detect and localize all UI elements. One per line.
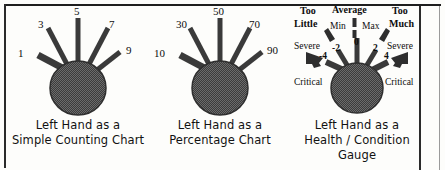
zone-label-max: Max — [362, 22, 379, 32]
zone-label-average: Average — [332, 5, 367, 15]
zone-label-severe-left: Severe — [294, 42, 320, 52]
caption-line-2: Percentage Chart — [150, 133, 290, 148]
hand-diagram-counting — [8, 0, 148, 120]
finger-label-1: 1 — [18, 48, 24, 59]
critical-right-arrow-icon — [391, 52, 408, 68]
zone-label-critical-right: Critical — [385, 78, 414, 88]
zone-label-critical-left: Critical — [294, 78, 323, 88]
finger-label-90: 90 — [267, 45, 278, 56]
finger-label-10: 10 — [154, 48, 165, 59]
panel-caption-gauge: Left Hand as a Health / Condition Gauge — [292, 118, 422, 163]
hand-diagram-percentage — [150, 0, 290, 120]
caption-line-2: Simple Counting Chart — [8, 133, 148, 148]
frame-border-left — [4, 4, 6, 168]
panel-caption-percentage: Left Hand as a Percentage Chart — [150, 118, 290, 148]
caption-line-2: Health / Condition Gauge — [292, 133, 422, 163]
gauge-value-0: 0 — [354, 38, 359, 48]
clipped-next-line-bleed — [0, 161, 445, 170]
zone-label-too-much-line2: Much — [389, 19, 414, 29]
finger-label-50: 50 — [213, 6, 224, 17]
finger-label-7: 7 — [109, 19, 115, 30]
frame-border-right-outer — [439, 6, 440, 170]
hand-glyph — [150, 0, 290, 120]
zone-label-severe-right: Severe — [387, 42, 413, 52]
caption-line-1: Left Hand as a — [150, 118, 290, 133]
palm-shape — [192, 61, 248, 115]
zone-label-too-little-line1: Too — [300, 6, 316, 16]
palm-shape — [331, 63, 383, 113]
finger-label-5: 5 — [74, 6, 80, 17]
palm-shape — [50, 61, 106, 115]
gauge-value-minus-2: -2 — [332, 44, 340, 54]
zone-label-too-much-line1: Too — [392, 6, 408, 16]
severe-right-slash-icon — [379, 28, 390, 42]
hand-glyph — [8, 0, 148, 120]
finger-label-9: 9 — [126, 45, 132, 56]
panel-health-condition-gauge: Too Little Average Too Much Min Max Seve… — [292, 0, 422, 170]
min-tick-icon — [353, 18, 357, 27]
panel-percentage-chart: 10 30 50 70 90 Left Hand as a Percentage… — [150, 0, 290, 170]
caption-line-1: Left Hand as a — [8, 118, 148, 133]
finger-label-30: 30 — [176, 19, 187, 30]
caption-line-1: Left Hand as a — [292, 118, 422, 133]
zone-label-too-little-line2: Little — [294, 19, 317, 29]
gauge-value-minus-4: -4 — [319, 52, 327, 62]
zone-label-min: Min — [330, 22, 346, 32]
panel-simple-counting-chart: 1 3 5 7 9 Left Hand as a Simple Counting… — [8, 0, 148, 170]
finger-label-3: 3 — [38, 19, 44, 30]
gauge-value-4: 4 — [384, 52, 389, 62]
gauge-value-2: 2 — [373, 44, 378, 54]
figure-canvas: 1 3 5 7 9 Left Hand as a Simple Counting… — [0, 0, 445, 170]
finger-label-70: 70 — [249, 19, 260, 30]
panel-caption-counting: Left Hand as a Simple Counting Chart — [8, 118, 148, 148]
